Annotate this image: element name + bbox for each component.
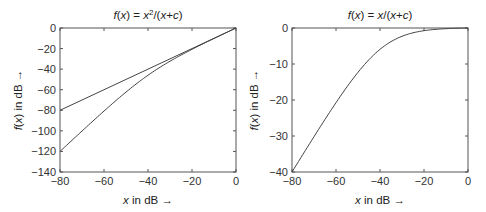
x-tick-label: −20 (183, 175, 202, 187)
x-tick-label: −40 (139, 175, 158, 187)
y-tick-label: 0 (50, 22, 56, 34)
y-tick-label: −40 (269, 166, 288, 178)
x-tick-label: −40 (371, 175, 390, 187)
y-tick-label: −120 (31, 145, 56, 157)
chart-title: f(x) = x/(x+c) (348, 9, 413, 21)
x-tick-label: 0 (465, 175, 471, 187)
chart-title: f(x) = x2/(x+c) (113, 8, 182, 21)
plot-frame (60, 28, 236, 172)
x-axis-label: x in dB → (354, 194, 405, 206)
chart-panel-1: −80−60−40−2000−20−40−60−80−100−120−140f(… (12, 8, 239, 206)
y-tick-label: −80 (37, 104, 56, 116)
y-tick-label: −140 (31, 166, 56, 178)
y-axis-label: f(x) in dB → (248, 70, 260, 131)
chart-canvas: −80−60−40−2000−20−40−60−80−100−120−140f(… (0, 0, 486, 212)
series-line (292, 28, 468, 172)
x-tick-label: −60 (327, 175, 346, 187)
chart-panel-2: −80−60−40−2000−10−20−30−40f(x) = x/(x+c)… (248, 9, 471, 206)
y-axis-label: f(x) in dB → (12, 70, 24, 131)
x-tick-label: −60 (95, 175, 114, 187)
y-tick-label: −30 (269, 130, 288, 142)
y-tick-label: −10 (269, 58, 288, 70)
series-line (60, 28, 236, 151)
y-tick-label: −40 (37, 63, 56, 75)
y-tick-label: −20 (269, 94, 288, 106)
x-tick-label: 0 (233, 175, 239, 187)
y-tick-label: −100 (31, 125, 56, 137)
y-tick-label: −60 (37, 84, 56, 96)
x-axis-label: x in dB → (122, 194, 173, 206)
x-tick-label: −20 (415, 175, 434, 187)
y-tick-label: 0 (282, 22, 288, 34)
y-tick-label: −20 (37, 43, 56, 55)
